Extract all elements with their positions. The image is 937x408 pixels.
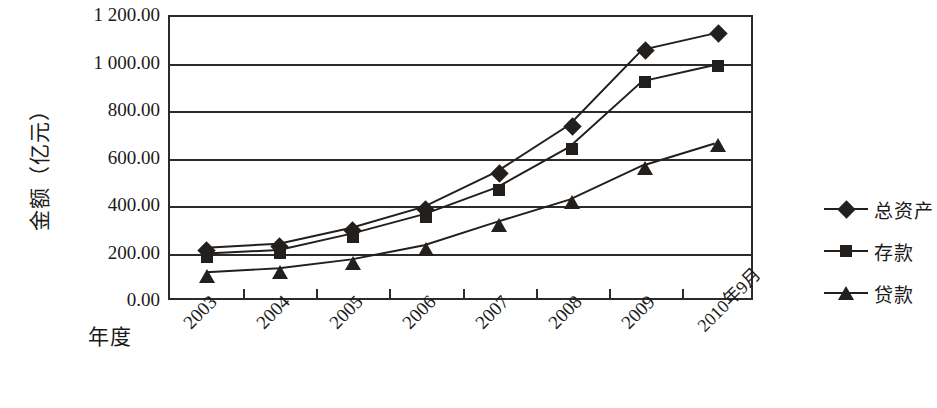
- x-axis-tick-label: 2005: [325, 291, 367, 333]
- diamond-marker-icon: [837, 200, 855, 218]
- x-axis-tick-label: 2010年9月: [690, 261, 766, 337]
- legend-item-label: 贷款: [868, 280, 914, 307]
- x-axis-tick-label: 2003: [179, 291, 221, 333]
- legend-item[interactable]: 总资产: [824, 188, 937, 230]
- square-marker-icon: [840, 245, 852, 257]
- legend-key: [824, 241, 868, 261]
- legend: 总资产存款贷款: [824, 188, 937, 314]
- x-axis-tick-label: 2009: [617, 291, 659, 333]
- legend-item-label: 存款: [868, 238, 914, 265]
- x-axis-tick-label: 2006: [398, 291, 440, 333]
- x-axis-tick-label: 2008: [544, 291, 586, 333]
- legend-item-label: 总资产: [868, 196, 934, 223]
- legend-item[interactable]: 贷款: [824, 272, 937, 314]
- x-axis-tick-label: 2004: [252, 291, 294, 333]
- x-axis-tick-labels: 20032004200520062007200820092010年9月: [0, 0, 937, 408]
- legend-key: [824, 283, 868, 303]
- triangle-marker-icon: [838, 286, 854, 300]
- x-axis-tick-label: 2007: [471, 291, 513, 333]
- legend-key: [824, 199, 868, 219]
- line-chart: 金额（亿元） 1 200.001 000.00800.00600.00400.0…: [0, 0, 937, 408]
- legend-item[interactable]: 存款: [824, 230, 937, 272]
